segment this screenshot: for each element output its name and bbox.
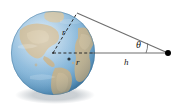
label-height-h: h: [124, 58, 129, 67]
theta-angle-arc: [146, 43, 148, 53]
label-angle-theta: θ: [136, 40, 141, 50]
figure-canvas: [0, 0, 191, 109]
label-radius-slant: r: [62, 28, 66, 37]
label-radius-horizontal: r: [76, 58, 80, 67]
globe-center-point: [52, 52, 54, 54]
external-observer-point: [165, 50, 171, 56]
earth-globe: [11, 10, 95, 98]
geometry-figure: r r θ h: [0, 0, 191, 109]
